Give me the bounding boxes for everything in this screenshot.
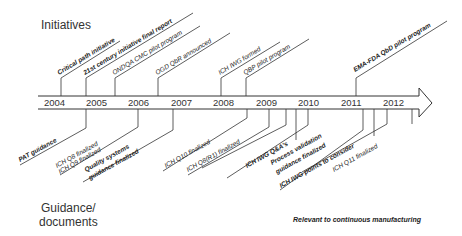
- year-2012: 2012: [383, 97, 404, 108]
- initiative-qbp-pilot: QBP pilot program: [242, 42, 292, 77]
- year-2007: 2007: [171, 97, 192, 108]
- guidance-pat: PAT guidance: [17, 136, 58, 164]
- timeline-diagram: 2004 2005 2006 2007 2008 2009 2010 2011 …: [0, 0, 462, 236]
- year-2006: 2006: [128, 97, 149, 108]
- year-2005: 2005: [86, 97, 107, 108]
- year-2011: 2011: [341, 97, 361, 108]
- year-labels: 2004 2005 2006 2007 2008 2009 2010 2011 …: [44, 97, 404, 108]
- guidance-ich-q8r1: ICH Q8(R1) finalized: [185, 137, 242, 173]
- year-2004: 2004: [44, 97, 65, 108]
- year-2010: 2010: [298, 97, 319, 108]
- initiative-ich-iwg-formed: ICH IWG formed: [217, 45, 262, 76]
- year-2009: 2009: [256, 97, 277, 108]
- guidance-ich-q11: ICH Q11 finalized: [331, 142, 379, 174]
- initiative-ema-fda-qbd: EMA-FDA QbD pilot program: [352, 21, 433, 74]
- year-2008: 2008: [213, 97, 234, 108]
